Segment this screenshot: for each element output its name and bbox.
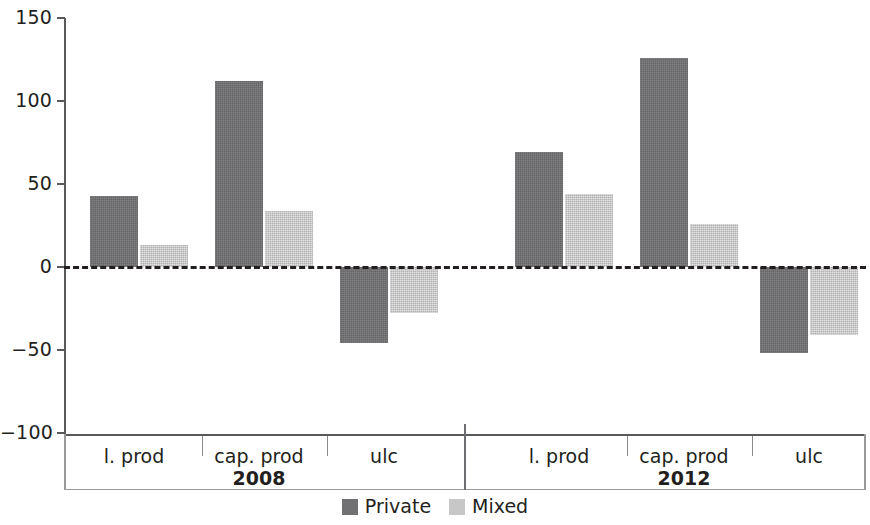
y-tick-mark <box>57 183 65 185</box>
bar-2008-capprod-mixed <box>265 211 313 267</box>
x-period-label-2012: 2012 <box>614 468 754 488</box>
bar-2008-lprod-private <box>90 196 138 267</box>
bar-2012-ulc-mixed <box>810 267 858 335</box>
y-tick-mark <box>57 349 65 351</box>
x-category-label-2012-0: l. prod <box>489 446 629 466</box>
bar-2008-ulc-mixed <box>390 267 438 313</box>
x-category-label-2012-1: cap. prod <box>614 446 754 466</box>
y-tick-label: −50 <box>0 340 52 359</box>
y-tick-label: 150 <box>0 8 52 27</box>
bar-2012-lprod-mixed <box>565 194 613 267</box>
legend-label-mixed: Mixed <box>472 497 528 516</box>
x-category-label-2008-0: l. prod <box>64 446 204 466</box>
bar-2012-capprod-mixed <box>690 224 738 267</box>
legend-label-private: Private <box>365 497 431 516</box>
y-tick-mark <box>57 100 65 102</box>
y-tick-label: 100 <box>0 91 52 110</box>
bar-2008-ulc-private <box>340 267 388 343</box>
y-tick-label: 0 <box>0 257 52 276</box>
x-category-label-2008-2: ulc <box>314 446 454 466</box>
legend-swatch-mixed-icon <box>449 499 465 515</box>
zero-baseline <box>64 266 866 269</box>
legend-item-private: Private <box>342 497 431 516</box>
bar-2012-capprod-private <box>640 58 688 267</box>
bar-chart: 150100500−50−100 l. prodcap. produlcl. p… <box>0 0 870 525</box>
y-tick-mark <box>57 17 65 19</box>
y-axis-line <box>64 18 66 435</box>
x-period-label-2008: 2008 <box>189 468 329 488</box>
bar-2008-capprod-private <box>215 81 263 267</box>
bar-2012-lprod-private <box>515 152 563 267</box>
y-tick-label: −100 <box>0 423 52 442</box>
y-tick-label: 50 <box>0 174 52 193</box>
group-separator <box>464 424 466 490</box>
legend: Private Mixed <box>0 497 870 516</box>
x-category-label-2012-2: ulc <box>739 446 870 466</box>
bar-2012-ulc-private <box>760 267 808 353</box>
x-category-label-2008-1: cap. prod <box>189 446 329 466</box>
legend-swatch-private-icon <box>342 499 358 515</box>
legend-item-mixed: Mixed <box>449 497 528 516</box>
bar-2008-lprod-mixed <box>140 245 188 267</box>
